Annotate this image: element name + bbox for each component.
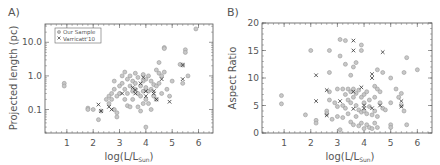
panel-b-xlabel: log(L/LSun) — [326, 151, 375, 163]
data-point-circle — [194, 27, 198, 31]
data-point-circle — [354, 61, 358, 65]
svg-text:2: 2 — [308, 138, 314, 148]
data-point-circle — [110, 91, 114, 95]
data-point-circle — [341, 87, 345, 91]
data-point-circle — [303, 113, 307, 117]
data-point-circle — [351, 95, 355, 99]
data-point-circle — [330, 117, 334, 121]
data-point-circle — [123, 87, 127, 91]
data-point-circle — [354, 104, 358, 108]
data-point-circle — [115, 115, 119, 119]
panel-a: A) 1234560.11.010.0 Projected length (pc… — [8, 6, 213, 163]
svg-text:5: 5 — [388, 138, 394, 148]
data-point-circle — [351, 123, 355, 127]
panel-b-label: B) — [227, 6, 239, 19]
data-point-circle — [335, 115, 339, 119]
data-point-x — [338, 99, 342, 103]
svg-text:15: 15 — [248, 46, 259, 56]
data-point-circle — [112, 87, 116, 91]
data-point-circle — [327, 71, 331, 75]
data-point-x — [381, 50, 385, 54]
svg-text:3: 3 — [335, 138, 341, 148]
legend: Our Sample Varricatt'10 — [55, 28, 101, 43]
data-point-circle — [335, 105, 339, 109]
data-point-circle — [128, 74, 132, 78]
data-point-circle — [370, 127, 374, 131]
panel-a-xlabel: log(L/LSun) — [105, 151, 154, 163]
data-point-circle — [157, 81, 161, 85]
data-point-x — [360, 86, 364, 90]
data-point-circle — [365, 90, 369, 94]
svg-text:6: 6 — [196, 138, 202, 148]
data-point-circle — [314, 121, 318, 125]
data-point-x — [400, 99, 404, 103]
data-point-circle — [351, 65, 355, 69]
data-point-circle — [397, 95, 401, 99]
data-point-x — [370, 72, 374, 76]
data-point-circle — [149, 108, 153, 112]
svg-text:2: 2 — [90, 138, 96, 148]
data-point-circle — [146, 102, 150, 106]
data-point-circle — [343, 93, 347, 97]
data-point-x — [352, 107, 356, 111]
svg-text:5: 5 — [169, 138, 175, 148]
data-point-circle — [338, 38, 342, 42]
data-point-circle — [146, 74, 150, 78]
data-point-circle — [96, 118, 100, 122]
data-point-circle — [125, 91, 129, 95]
data-point-circle — [389, 101, 393, 105]
data-point-circle — [415, 68, 419, 72]
data-point-x — [370, 76, 374, 80]
data-point-x — [168, 100, 172, 104]
data-point-circle — [136, 75, 140, 79]
data-point-circle — [181, 81, 185, 85]
panel-b-points — [279, 38, 419, 132]
data-point-circle — [367, 98, 371, 102]
data-point-circle — [157, 61, 161, 65]
svg-text:4: 4 — [143, 138, 149, 148]
data-point-circle — [136, 105, 140, 109]
legend-label-varricatt: Varricatt'10 — [63, 36, 95, 42]
data-point-circle — [144, 86, 148, 90]
data-point-circle — [141, 102, 145, 106]
data-point-circle — [168, 94, 172, 98]
data-point-circle — [373, 121, 377, 125]
data-point-circle — [346, 112, 350, 116]
data-point-circle — [375, 126, 379, 130]
panel-a-ylabel: Projected length (pc) — [8, 26, 19, 131]
data-point-circle — [139, 94, 143, 98]
data-point-circle — [389, 126, 393, 130]
data-point-circle — [123, 97, 127, 101]
data-point-circle — [381, 71, 385, 75]
data-point-x — [352, 39, 356, 43]
data-point-circle — [144, 125, 148, 129]
data-point-circle — [370, 113, 374, 117]
svg-text:1: 1 — [281, 138, 287, 148]
data-point-circle — [327, 49, 331, 53]
svg-text:0.1: 0.1 — [28, 105, 42, 115]
data-point-circle — [359, 49, 363, 53]
data-point-circle — [160, 91, 164, 95]
data-point-circle — [343, 62, 347, 66]
data-point-circle — [149, 79, 153, 83]
data-point-circle — [133, 81, 137, 85]
data-point-circle — [112, 79, 116, 83]
data-point-circle — [354, 115, 358, 119]
svg-text:3: 3 — [117, 138, 123, 148]
data-point-circle — [139, 109, 143, 113]
data-point-circle — [359, 121, 363, 125]
data-point-circle — [279, 102, 283, 106]
data-point-circle — [405, 56, 409, 60]
svg-text:20: 20 — [248, 18, 260, 28]
data-point-circle — [338, 54, 342, 58]
data-point-circle — [405, 123, 409, 127]
panel-b: B) 12345605101520 Aspect Ratio log(L/LSu… — [227, 6, 432, 163]
figure: A) 1234560.11.010.0 Projected length (pc… — [0, 0, 440, 165]
data-point-circle — [186, 74, 190, 78]
data-point-circle — [162, 70, 166, 74]
data-point-circle — [120, 74, 124, 78]
data-point-circle — [309, 49, 313, 53]
data-point-circle — [349, 101, 353, 105]
data-point-circle — [131, 97, 135, 101]
data-point-x — [97, 103, 101, 107]
